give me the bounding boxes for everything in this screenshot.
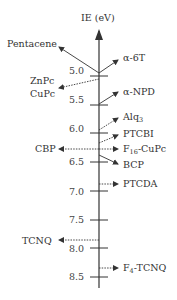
label-f16cupc-base: F	[123, 143, 130, 154]
label-alq3-sub: 3	[139, 116, 143, 124]
label-alq3: Alq3	[123, 112, 143, 122]
ie-axis	[95, 29, 103, 288]
arrow-ptcbi	[99, 135, 118, 143]
label-ptcbi: PTCBI	[123, 129, 154, 139]
label-f16cupc-suffix: -CuPc	[138, 143, 166, 154]
label-alq3-base: Alq	[123, 111, 139, 122]
label-cbp: CBP	[35, 144, 56, 154]
arrow-alq3	[99, 118, 118, 130]
tick-label-7-5: 7.5	[69, 215, 84, 225]
label-tcnq: TCNQ	[22, 236, 52, 246]
label-cupc: CuPc	[30, 89, 55, 99]
axis-arrowhead-icon	[95, 29, 103, 40]
tick-label-8-0: 8.0	[69, 244, 84, 254]
label-f16cupc: F16-CuPc	[123, 144, 166, 154]
tick-label-6-5: 6.5	[69, 157, 84, 167]
label-f16cupc-sub: 16	[130, 148, 138, 156]
tick-label-6-0: 6.0	[69, 124, 84, 134]
label-f4tcnq-suffix: -TCNQ	[134, 262, 167, 273]
tick-label-8-5: 8.5	[69, 272, 84, 282]
label-pentacene: Pentacene	[7, 39, 57, 49]
label-f4tcnq: F4-TCNQ	[123, 263, 166, 273]
label-bcp: BCP	[123, 160, 144, 170]
tick-label-5-5: 5.5	[69, 95, 84, 105]
label-ptcda: PTCDA	[123, 179, 157, 189]
tick-label-5-0: 5.0	[69, 66, 84, 76]
label-znpc: ZnPc	[30, 76, 54, 86]
arrow-bcp	[99, 155, 118, 164]
arrow-znpc-cupc	[59, 79, 99, 88]
arrow-a6t	[99, 60, 118, 73]
label-f4tcnq-base: F	[123, 262, 130, 273]
tick-label-7-0: 7.0	[69, 187, 84, 197]
axis-title: IE (eV)	[81, 12, 115, 23]
label-a6t: α-6T	[123, 53, 145, 63]
label-anpd: α-NPD	[123, 87, 155, 97]
arrow-anpd	[99, 92, 118, 104]
